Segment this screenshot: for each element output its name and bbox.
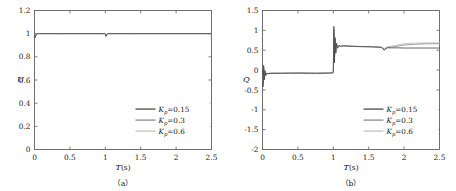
figure-container: 00.20.40.60.811.2 00.511.522.5 U T(s) （a… [0, 0, 456, 191]
x-axis-title-b: T(s) [343, 162, 358, 172]
y-tick-label: 1 [254, 26, 259, 35]
chart-b-plot-area: -2-1.5-1-0.500.511.5 00.511.522.5 [244, 6, 445, 162]
chart-panel-b: -2-1.5-1-0.500.511.5 00.511.522.5 Q T(s)… [228, 0, 456, 191]
x-tick-label: 0 [260, 153, 265, 162]
x-tick-label: 1 [103, 153, 108, 162]
x-tick-label: 2 [402, 153, 407, 162]
x-tick-label: 0.5 [64, 153, 76, 162]
y-tick-label: 1 [26, 29, 31, 38]
y-tick-label: 0.2 [19, 122, 31, 131]
y-axis-title-a: U [17, 74, 25, 84]
y-tick-label: -1.5 [244, 125, 259, 134]
x-tick-label: 2.5 [206, 153, 218, 162]
x-tick-label: 0 [32, 153, 37, 162]
y-tick-label: -2 [251, 145, 258, 154]
x-tick-label: 1.5 [135, 153, 147, 162]
y-tick-label: 0.5 [247, 46, 259, 55]
data-traces-a [35, 34, 212, 38]
data-traces-b [263, 26, 440, 86]
legend-b[interactable]: Kp=0.15Kp=0.3Kp=0.6 [361, 103, 439, 138]
y-axis-title-b: Q [243, 74, 250, 84]
y-tick-label: -1 [251, 105, 258, 114]
chart-panel-a: 00.20.40.60.811.2 00.511.522.5 U T(s) （a… [0, 0, 228, 191]
x-tick-label: 1 [331, 153, 336, 162]
trace-Kp06 [263, 32, 440, 82]
trace-Kp03 [263, 30, 440, 85]
x-tick-label: 2 [174, 153, 179, 162]
y-tick-label: 0.4 [19, 99, 31, 108]
panel-caption-b: （b） [341, 179, 362, 188]
y-tick-label: -0.5 [244, 86, 259, 95]
x-axis-title-a: T(s) [115, 162, 130, 172]
y-tick-label: 0 [26, 145, 31, 154]
panel-caption-a: （a） [113, 179, 134, 188]
y-tick-label: 0.8 [19, 52, 31, 61]
y-tick-label: 1.5 [247, 6, 259, 15]
x-tick-label: 1.5 [363, 153, 375, 162]
trace-Kp015 [35, 34, 212, 38]
x-tick-label: 2.5 [434, 153, 446, 162]
chart-a-plot-area: 00.20.40.60.811.2 00.511.522.5 [19, 6, 218, 162]
x-axis-tick-labels-a: 00.511.522.5 [32, 153, 218, 162]
y-tick-label: 0 [254, 66, 259, 75]
trace-Kp015 [263, 26, 440, 86]
x-tick-label: 0.5 [292, 153, 304, 162]
legend-a[interactable]: Kp=0.15Kp=0.3Kp=0.6 [133, 103, 211, 138]
chart-b-svg: -2-1.5-1-0.500.511.5 00.511.522.5 Q T(s)… [228, 0, 456, 191]
y-tick-label: 1.2 [19, 6, 31, 15]
chart-a-svg: 00.20.40.60.811.2 00.511.522.5 U T(s) （a… [0, 0, 228, 191]
x-axis-tick-labels-b: 00.511.522.5 [260, 153, 446, 162]
